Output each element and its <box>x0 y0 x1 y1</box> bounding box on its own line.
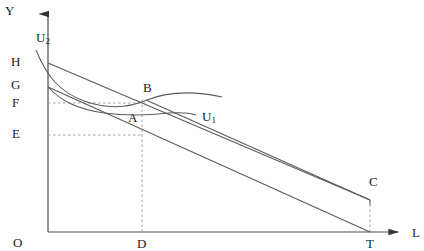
economics-diagram-figure: Y L O H G F E D T A B C U2 U1 <box>0 0 424 251</box>
y-tick-label-g: G <box>11 78 20 91</box>
budget-line-kink-BC <box>146 100 370 200</box>
y-tick-label-f: F <box>12 96 19 109</box>
indifference-curve-u2 <box>36 50 222 107</box>
x-tick-label-d: D <box>137 237 146 250</box>
origin-label: O <box>13 236 22 249</box>
y-axis-label: Y <box>5 4 14 17</box>
indifference-curve-u1 <box>48 87 196 115</box>
curve-label-u1: U1 <box>202 110 216 125</box>
curve-label-u2: U2 <box>36 31 50 46</box>
point-label-a: A <box>128 111 137 124</box>
x-tick-label-t: T <box>366 237 374 250</box>
point-label-b: B <box>143 81 152 94</box>
x-axis-label: L <box>412 226 420 239</box>
diagram-canvas <box>0 0 424 251</box>
budget-line-upper-HC <box>48 63 370 200</box>
y-tick-label-e: E <box>12 127 20 140</box>
point-label-c: C <box>369 175 378 188</box>
y-tick-label-h: H <box>11 55 20 68</box>
